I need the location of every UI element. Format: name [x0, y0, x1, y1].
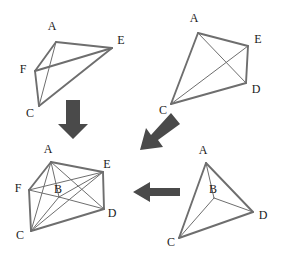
edge-AE: [198, 33, 248, 46]
vertex-label-D: D: [259, 208, 268, 222]
arrow-down-icon: [58, 100, 88, 139]
panel-bottom-right-edges: [179, 163, 253, 238]
vertex-label-E: E: [254, 32, 261, 46]
arrow-left-icon: [133, 182, 180, 202]
panel-bottom-right-labels: ABDC: [167, 143, 268, 249]
vertex-label-B: B: [54, 182, 62, 196]
edge-CE: [39, 48, 112, 106]
edge-FC: [35, 71, 39, 106]
vertex-label-A: A: [44, 142, 53, 156]
edge-BE: [59, 172, 103, 197]
edge-FC: [29, 190, 31, 231]
edge-AD: [198, 33, 246, 83]
vertex-label-C: C: [167, 235, 175, 249]
vertex-label-B: B: [209, 182, 217, 196]
vertex-label-C: C: [26, 106, 34, 120]
panel-top-right-edges: [171, 33, 248, 104]
vertex-label-F: F: [20, 62, 27, 76]
edge-ED: [103, 172, 104, 209]
vertex-label-A: A: [190, 11, 199, 25]
edge-FE: [35, 48, 112, 71]
vertex-label-A: A: [48, 19, 57, 33]
edge-AC: [179, 163, 206, 238]
vertex-label-E: E: [117, 33, 124, 47]
panel-top-left-edges: [35, 42, 112, 106]
edge-ED: [246, 46, 248, 83]
polyhedron-diagram: AEFCAEDCAEFBDCABDC: [0, 0, 288, 258]
edge-AE: [51, 162, 103, 172]
arrow-diagonal-down-left-icon: [140, 113, 180, 150]
vertex-label-C: C: [16, 228, 24, 242]
edge-AE: [56, 42, 112, 48]
panel-bottom-left-edges: [29, 162, 104, 231]
edge-AC: [31, 162, 51, 231]
vertex-label-D: D: [252, 82, 261, 96]
edge-CD: [171, 83, 246, 104]
edges-layer: [29, 33, 253, 238]
vertex-label-E: E: [103, 157, 110, 171]
figure-root: AEFCAEDCAEFBDCABDC: [0, 0, 288, 258]
vertex-label-D: D: [108, 206, 117, 220]
edge-AC: [39, 42, 56, 106]
vertex-label-C: C: [159, 103, 167, 117]
edge-CD: [31, 209, 104, 231]
vertex-label-A: A: [199, 143, 208, 157]
vertex-label-F: F: [15, 181, 22, 195]
